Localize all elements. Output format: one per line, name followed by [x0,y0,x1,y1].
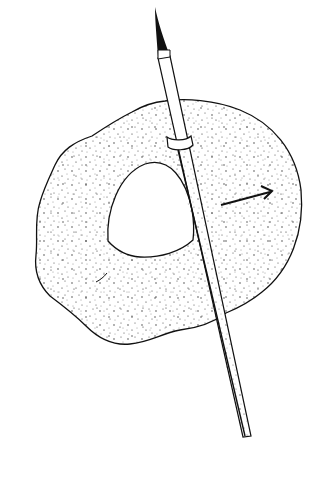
drawing-canvas: Brush over dough with dome-shaped cutout [0,0,327,479]
ink-drawing [0,0,327,479]
